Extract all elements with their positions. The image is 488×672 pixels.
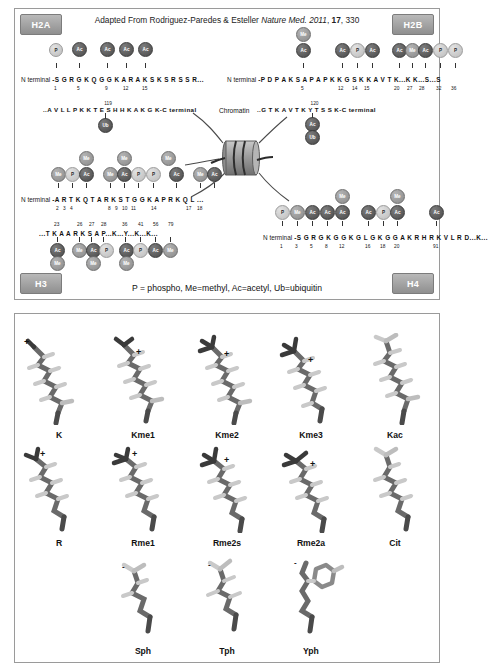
mod-badge-p[interactable]: P <box>275 205 290 220</box>
h3-n-sequence: -A R T K Q T A R K S T G G K A P R K Q L… <box>52 196 204 203</box>
structure-cell-kme3: + Kme3 <box>269 333 353 440</box>
structure-grid: + K <box>15 328 439 656</box>
h2b-n-sequence: -P D P A K S A P A P K K G S K K A V T K… <box>258 76 441 83</box>
h2a-n-terminal-label: N terminal <box>21 76 50 83</box>
molecule-rme2s: + <box>188 445 266 533</box>
mod-badge-me[interactable]: Me <box>163 243 178 258</box>
mod-badge-ac[interactable]: Ac <box>335 205 350 220</box>
mod-badge-ac[interactable]: Ac <box>79 167 94 182</box>
amino-acid-structures-panel: + K <box>14 313 440 663</box>
mod-badge-ac[interactable]: Ac <box>365 43 380 58</box>
h2b-tick-marks <box>227 63 437 68</box>
molecule-cit <box>356 445 434 533</box>
h2b-modification-badges: Me Ac Ac P Ac Ac Me Ac P P <box>227 27 437 63</box>
h3-n-terminal-label: N terminal <box>21 196 50 203</box>
mod-badge-me[interactable]: Me <box>50 256 65 271</box>
svg-text:+: + <box>24 337 29 347</box>
molecule-sph: - <box>104 557 182 641</box>
svg-text:-: - <box>122 562 125 571</box>
structure-label: Kme2 <box>185 430 269 440</box>
mod-badge-me[interactable]: Me <box>79 151 94 166</box>
mod-badge-me[interactable]: Me <box>335 189 350 204</box>
mod-badge-ac[interactable]: Ac <box>320 205 335 220</box>
mod-badge-ac[interactable]: Ac <box>148 243 163 258</box>
mod-badge-ac[interactable]: Ac <box>296 43 311 58</box>
mod-badge-p[interactable]: P <box>350 43 365 58</box>
molecule-k: + <box>20 333 98 425</box>
mod-badge-me[interactable]: Me <box>161 151 176 166</box>
mod-badge-ub[interactable]: Ub <box>305 130 320 145</box>
mod-badge-ac[interactable]: Ac <box>335 43 350 58</box>
h3-residue-numbers: 2 3 4 8 9 10 11 14 17 18 <box>21 206 231 213</box>
mod-badge-p[interactable]: P <box>99 243 114 258</box>
mod-badge-p[interactable]: P <box>131 167 146 182</box>
structure-cell-kac: Kac <box>353 333 437 440</box>
svg-text:-: - <box>208 560 211 569</box>
mod-badge-me[interactable]: Me <box>117 151 132 166</box>
mod-badge-p[interactable]: P <box>376 205 391 220</box>
svg-text:+: + <box>224 349 229 359</box>
structure-label: Tph <box>185 646 269 656</box>
mod-badge-ac[interactable]: Ac <box>429 205 444 220</box>
h3-internal-group: 23 26 27 28 36 41 56 79 ...T K A A R K S… <box>21 222 221 272</box>
svg-text:+: + <box>40 449 45 459</box>
mod-badge-ac[interactable]: Ac <box>138 42 153 57</box>
structure-row-lysine: + K <box>15 328 439 440</box>
molecule-kac <box>356 333 434 425</box>
structure-row-phospho: - Sph - <box>15 548 439 656</box>
mod-badge-me[interactable]: Me <box>119 256 134 271</box>
h4-tick-marks <box>263 221 443 226</box>
structure-cell-r: + R <box>17 445 101 548</box>
mod-badge-me[interactable]: Me <box>390 189 405 204</box>
svg-text:+: + <box>224 455 229 465</box>
structure-label: R <box>17 538 101 548</box>
h2b-residue-numbers: 5 12 14 15 20 27 28 32 36 <box>227 86 467 93</box>
h4-n-sequence: -S G R G K G G K G L G K G G A K R H R K… <box>294 234 488 241</box>
mod-badge-ac[interactable]: Ac <box>119 42 134 57</box>
h3-modification-badges: Me Me Me Me P Ac Me Ac P P Ac Me Ac <box>21 151 221 183</box>
structure-cell-rme1: + Rme1 <box>101 445 185 548</box>
mod-badge-me[interactable]: Me <box>72 243 87 258</box>
h3-internal-badges: Ac Me Me Ac P Me Ac P Ac Me Me <box>21 242 221 272</box>
mod-badge-p[interactable]: P <box>133 243 148 258</box>
mod-badge-ac[interactable]: Ac <box>100 42 115 57</box>
mod-badge-p[interactable]: P <box>448 43 463 58</box>
mod-badge-ac[interactable]: Ac <box>361 205 376 220</box>
h3-internal-sequence: ...T K A A R K S A P...K...Y...K...K... <box>21 230 221 237</box>
svg-text:-: - <box>294 558 297 567</box>
mod-badge-ac[interactable]: Ac <box>390 205 405 220</box>
mod-badge-ac[interactable]: Ac <box>207 167 222 182</box>
structure-cell-tph: - Tph <box>185 557 269 656</box>
structure-label: Cit <box>353 538 437 548</box>
h3-internal-numbers: 23 26 27 28 36 41 56 79 <box>21 222 231 230</box>
mod-badge-me[interactable]: Me <box>103 167 118 182</box>
mod-badge-ac[interactable]: Ac <box>169 167 184 182</box>
h2b-n-terminal-label: N terminal <box>227 76 256 83</box>
mod-badge-me[interactable]: Me <box>296 27 311 42</box>
structure-label: Yph <box>269 646 353 656</box>
histone-block-h4: Me Me P Me Ac Ac Ac Ac P Ac Ac N termina… <box>263 189 443 251</box>
molecule-kme1: + <box>104 333 182 425</box>
mod-badge-p[interactable]: P <box>65 167 80 182</box>
mod-badge-me[interactable]: Me <box>86 256 101 271</box>
mod-badge-me[interactable]: Me <box>193 167 208 182</box>
structure-label: Rme2a <box>269 538 353 548</box>
mod-badge-me[interactable]: Me <box>51 167 66 182</box>
mod-badge-ac[interactable]: Ac <box>72 42 87 57</box>
molecule-yph: - <box>272 557 350 641</box>
mod-badge-p[interactable]: P <box>433 43 448 58</box>
svg-text:+: + <box>132 449 137 459</box>
h3-tick-marks <box>21 183 221 188</box>
mod-badge-me[interactable]: Me <box>290 205 305 220</box>
molecule-rme2a: + <box>272 445 350 533</box>
mod-badge-p[interactable]: P <box>146 167 161 182</box>
structure-cell-yph: - Yph <box>269 557 353 656</box>
mod-badge-ub[interactable]: Ub <box>98 118 113 133</box>
mod-badge-ac[interactable]: Ac <box>305 205 320 220</box>
mod-badge-ac[interactable]: Ac <box>418 43 433 58</box>
molecule-r: + <box>20 445 98 533</box>
h2a-modification-badges: P Ac Ac Ac Ac <box>21 35 211 63</box>
mod-badge-ac[interactable]: Ac <box>117 167 132 182</box>
mod-badge-p[interactable]: P <box>49 43 63 57</box>
